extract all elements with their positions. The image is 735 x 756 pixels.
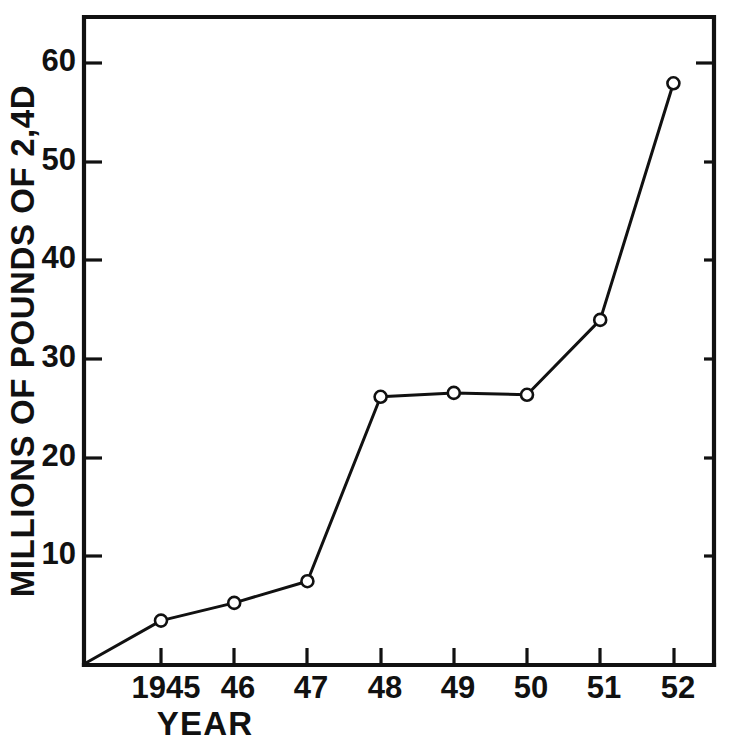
x-axis-tick-labels: 1945 46 47 48 49 50 51 52	[132, 670, 696, 705]
y-tick-label-30: 30	[42, 339, 76, 374]
x-tick-label-48: 48	[368, 670, 402, 705]
data-point-marker	[375, 391, 387, 403]
x-tick-label-51: 51	[587, 670, 621, 705]
plot-frame	[84, 17, 714, 665]
axis-spine-left-top-right	[84, 17, 714, 665]
line-chart: 60 50 40 30 20 10 1945 46 47 48 49 50 51	[0, 0, 735, 756]
data-markers	[155, 77, 679, 626]
data-point-marker	[301, 575, 313, 587]
data-point-marker	[594, 314, 606, 326]
data-line-2-4d	[84, 83, 673, 664]
x-tick-label-50: 50	[514, 670, 548, 705]
y-tick-label-10: 10	[42, 536, 76, 571]
data-point-marker	[448, 387, 460, 399]
y-tick-label-50: 50	[42, 142, 76, 177]
y-tick-label-40: 40	[42, 240, 76, 275]
data-point-marker	[521, 389, 533, 401]
x-axis-title: YEAR	[157, 705, 254, 742]
data-point-marker	[155, 615, 167, 627]
data-series-group	[84, 77, 679, 664]
x-axis-ticks	[161, 648, 674, 665]
x-tick-label-52: 52	[661, 670, 695, 705]
data-point-marker	[667, 77, 679, 89]
y-tick-label-60: 60	[42, 43, 76, 78]
data-point-marker	[228, 597, 240, 609]
y-axis-ticks-right	[696, 63, 714, 556]
chart-figure: 60 50 40 30 20 10 1945 46 47 48 49 50 51	[0, 0, 735, 756]
x-tick-label-46: 46	[221, 670, 255, 705]
y-axis-title: MILLIONS OF POUNDS OF 2,4D	[4, 85, 41, 597]
x-tick-label-47: 47	[294, 670, 328, 705]
y-axis-ticks	[84, 63, 102, 556]
y-axis-tick-labels: 60 50 40 30 20 10	[42, 43, 76, 571]
y-tick-label-20: 20	[42, 438, 76, 473]
x-tick-label-1945: 1945	[132, 670, 201, 705]
x-tick-label-49: 49	[441, 670, 475, 705]
